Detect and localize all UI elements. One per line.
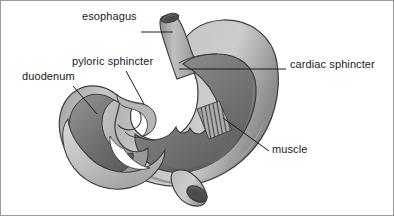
label-cardiac-sphincter: cardiac sphincter	[290, 58, 375, 70]
stomach-diagram-illustration	[1, 1, 394, 216]
label-duodenum: duodenum	[22, 70, 75, 82]
diagram-page: esophagus pyloric sphincter duodenum car…	[0, 0, 394, 216]
label-muscle: muscle	[272, 143, 307, 155]
label-pyloric-sphincter: pyloric sphincter	[72, 55, 153, 67]
duodenum-group	[59, 86, 165, 189]
leader-line-pyloric-sphincter	[126, 71, 144, 104]
label-esophagus: esophagus	[82, 10, 137, 22]
